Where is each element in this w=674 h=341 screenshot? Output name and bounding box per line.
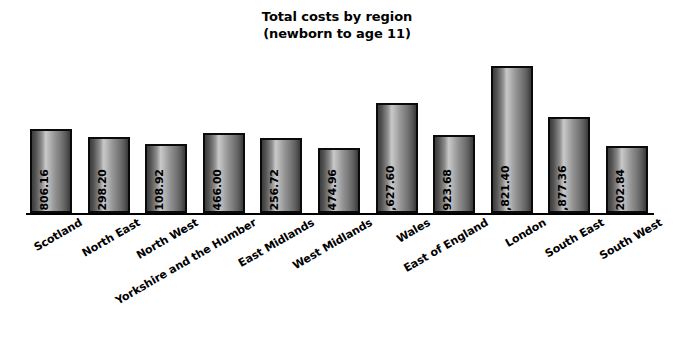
x-label-south-west: South West [597,216,664,262]
bar-slot-south-west: £77,202.84 [606,46,648,213]
bar-slot-north-east: £87,298.20 [88,46,130,213]
bar-yorkshire-and-the-humber[interactable]: £92,466.00 [203,133,245,213]
x-label-scotland: Scotland [32,216,85,254]
bar-slot-scotland: £96,806.16 [30,46,72,213]
bar-value-label: £96,806.16 [38,169,51,213]
bar-east-midlands[interactable]: £86,256.72 [260,138,302,213]
bar-south-west[interactable]: £77,202.84 [606,146,648,213]
bar-value-label: £79,108.92 [153,169,166,213]
x-label-london: London [503,216,549,250]
x-label-north-east: North East [80,216,143,260]
chart-subtitle: (newborn to age 11) [0,25,674,42]
x-axis-line [26,213,654,215]
bar-slot-wales: £126,627.60 [376,46,418,213]
bar-value-label: £75,474.96 [326,169,339,213]
bar-london[interactable]: £168,821.40 [491,66,533,213]
bar-slot-west-midlands: £75,474.96 [318,46,360,213]
bar-north-east[interactable]: £87,298.20 [88,137,130,213]
bar-value-label: £77,202.84 [614,169,627,213]
x-axis-labels: Scotland North East North West Yorkshire… [30,216,648,336]
bar-slot-london: £168,821.40 [491,46,533,213]
bar-value-label: £168,821.40 [499,165,512,213]
bar-value-label: £110,877.36 [556,165,569,213]
bar-slot-east-of-england: £89,923.68 [433,46,475,213]
bar-chart: Total costs by region (newborn to age 11… [0,0,674,341]
plot-area: £96,806.16 £87,298.20 £79,108.92 £92,466… [30,46,648,213]
bar-slot-yorkshire-and-the-humber: £92,466.00 [203,46,245,213]
bar-east-of-england[interactable]: £89,923.68 [433,135,475,213]
x-label-south-east: South East [543,216,607,260]
bar-wales[interactable]: £126,627.60 [376,103,418,213]
bar-value-label: £89,923.68 [441,169,454,213]
bar-slot-north-west: £79,108.92 [145,46,187,213]
bars-row: £96,806.16 £87,298.20 £79,108.92 £92,466… [30,46,648,213]
bar-slot-east-midlands: £86,256.72 [260,46,302,213]
bar-value-label: £126,627.60 [384,165,397,213]
bar-value-label: £87,298.20 [96,169,109,213]
page-title: Total costs by region [0,8,674,25]
chart-title-block: Total costs by region (newborn to age 11… [0,8,674,42]
x-label-wales: Wales [394,216,432,245]
bar-value-label: £92,466.00 [211,169,224,213]
bar-value-label: £86,256.72 [268,169,281,213]
bar-south-east[interactable]: £110,877.36 [548,117,590,213]
bar-scotland[interactable]: £96,806.16 [30,129,72,213]
bar-north-west[interactable]: £79,108.92 [145,144,187,213]
bar-slot-south-east: £110,877.36 [548,46,590,213]
bar-west-midlands[interactable]: £75,474.96 [318,148,360,213]
